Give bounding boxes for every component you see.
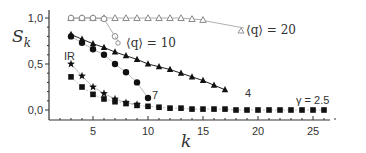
x-tick-label: 20 <box>252 125 264 137</box>
x-tick-label: 15 <box>197 125 209 137</box>
y-tick-label: 0,5 <box>28 58 43 70</box>
x-tick-label: 10 <box>142 125 154 137</box>
annotation-gamma: γ = 2.5 <box>296 94 329 106</box>
chart: 5101520250,00,51,0 Sk k ⟨q⟩ = 20 ⟨q⟩ = 1… <box>0 0 366 153</box>
x-axis-label: k <box>181 131 191 151</box>
series--q-10 <box>68 15 118 39</box>
y-tick-label: 0,0 <box>28 104 43 116</box>
x-tick-label: 25 <box>307 125 319 137</box>
annotation-7: 7 <box>152 89 158 101</box>
series--q-20 <box>68 15 206 23</box>
annotation-4: 4 <box>245 87 251 99</box>
annotation-ir: IR <box>64 50 75 62</box>
series--2-5 <box>68 74 327 113</box>
annotation-q20: ⟨q⟩ = 20 <box>246 23 296 37</box>
annotation-q10: ⟨q⟩ = 10 <box>126 36 176 50</box>
x-tick-label: 5 <box>90 125 96 137</box>
y-tick-label: 1,0 <box>28 12 43 24</box>
y-axis-label: Sk <box>12 26 31 50</box>
